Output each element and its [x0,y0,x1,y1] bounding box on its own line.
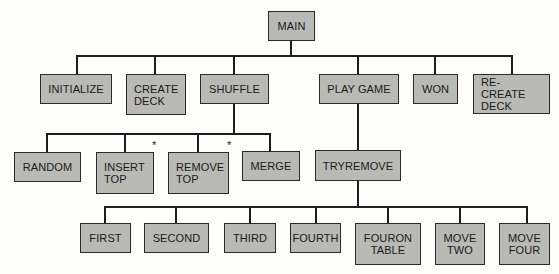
node-won: WON [413,74,458,104]
node-label: SECOND [153,232,201,244]
node-label: FOURTH [292,232,338,244]
connector-to-merge [269,133,271,152]
node-first: FIRST [80,223,131,253]
node-label: FOURON TABLE [364,232,412,256]
connector-to-third [249,206,251,223]
node-label: REMOVE TOP [176,161,224,185]
node-label: WON [422,83,449,95]
node-insert-top: INSERT TOP [96,152,154,194]
node-play-game: PLAY GAME [319,74,399,104]
connector-play-game-down [357,103,359,150]
node-shuffle: SHUFFLE [200,74,269,104]
node-label: THIRD [233,232,267,244]
connector-shuffle-bus [46,133,271,135]
node-move-two: MOVE TWO [435,223,485,265]
node-merge: MERGE [242,151,300,181]
node-random: RANDOM [14,152,81,182]
connector-to-insert-top [124,133,126,152]
node-label: MERGE [251,160,292,172]
connector-level1-bus [76,55,513,57]
node-label: MOVE FOUR [508,232,541,256]
node-label: SHUFFLE [209,83,260,95]
node-initialize: INITIALIZE [40,74,112,104]
connector-to-initialize [76,55,78,74]
node-label: PLAY GAME [327,83,390,95]
node-third: THIRD [224,223,276,253]
connector-tryremove-down [357,180,359,207]
node-label: MAIN [278,20,306,32]
node-label: INSERT TOP [104,161,145,185]
connector-shuffle-down [233,103,235,135]
connector-to-create-deck [154,55,156,74]
connector-main-down [290,40,292,56]
connector-to-shuffle [233,55,235,74]
connector-to-second [175,206,177,223]
node-fourth: FOURTH [290,223,341,253]
node-remove-top: REMOVE TOP [168,152,229,194]
node-second: SECOND [144,223,209,253]
node-create-deck: CREATE DECK [126,74,186,115]
connector-to-first [104,206,106,223]
connector-to-remove-top [197,133,199,152]
connector-to-move-four [526,206,528,223]
node-label: FIRST [89,232,121,244]
node-label: TRYREMOVE [323,160,393,172]
connector-to-fouron-table [387,206,389,223]
connector-to-fourth [315,206,317,223]
node-label: INITIALIZE [48,83,103,95]
node-label: RANDOM [23,161,73,173]
node-main: MAIN [268,11,315,41]
connector-to-random [46,133,48,152]
connector-to-move-two [459,206,461,223]
node-tryremove: TRYREMOVE [315,150,401,181]
remove-top-asterisk-marker: * [227,140,231,150]
node-label: MOVE TWO [444,232,477,256]
connector-to-play-game [357,55,359,74]
node-fouron-table: FOURON TABLE [355,223,421,265]
node-move-four: MOVE FOUR [499,223,550,265]
node-label: CREATE DECK [134,83,178,107]
node-label: RE-CREATE DECK [481,76,542,112]
insert-top-asterisk-marker: * [152,140,156,150]
node-re-create-deck: RE-CREATE DECK [473,74,550,114]
connector-to-re-create-deck [511,55,513,74]
connector-to-won [434,55,436,74]
